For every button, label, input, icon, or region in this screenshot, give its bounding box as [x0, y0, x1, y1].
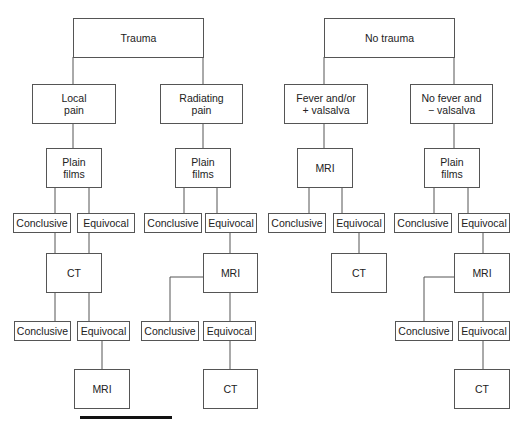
- no-fever-ct: CT: [454, 369, 510, 409]
- radiating-ct: CT: [203, 369, 258, 409]
- local-ct-conclusive: Conclusive: [14, 321, 71, 341]
- no-fever-plain-films: Plain films: [424, 148, 480, 188]
- radiating-plain-films: Plain films: [175, 148, 231, 188]
- fever-mri-equivocal: Equivocal: [333, 213, 385, 233]
- local-ct-equivocal: Equivocal: [77, 321, 130, 341]
- radiating-mri-conclusive: Conclusive: [141, 321, 199, 341]
- no-fever-films-equivocal: Equivocal: [458, 213, 510, 233]
- fever-mri: MRI: [297, 148, 353, 188]
- no-fever-films-conclusive: Conclusive: [394, 213, 452, 233]
- radiating-films-conclusive: Conclusive: [144, 213, 202, 233]
- no-fever-mri-conclusive: Conclusive: [395, 321, 453, 341]
- local-ct: CT: [46, 253, 102, 293]
- fever-ct: CT: [331, 253, 387, 293]
- radiating-mri: MRI: [203, 253, 258, 293]
- local-mri: MRI: [74, 369, 130, 409]
- branch-no-fever-valsalva: No fever and − valsalva: [410, 84, 493, 124]
- fever-mri-conclusive: Conclusive: [268, 213, 326, 233]
- branch-local-pain: Local pain: [32, 84, 116, 124]
- radiating-mri-equivocal: Equivocal: [203, 321, 256, 341]
- scale-bar: [80, 416, 172, 419]
- local-films-conclusive: Conclusive: [13, 213, 71, 233]
- root-no-trauma: No trauma: [324, 18, 455, 58]
- branch-radiating-pain: Radiating pain: [160, 84, 243, 124]
- local-plain-films: Plain films: [46, 148, 102, 188]
- branch-fever-valsalva: Fever and/or + valsalva: [284, 84, 368, 124]
- radiating-films-equivocal: Equivocal: [205, 213, 257, 233]
- no-fever-mri: MRI: [454, 253, 510, 293]
- root-trauma: Trauma: [73, 18, 204, 58]
- local-films-equivocal: Equivocal: [77, 213, 135, 233]
- no-fever-mri-equivocal: Equivocal: [458, 321, 510, 341]
- connector-lines: [0, 0, 520, 423]
